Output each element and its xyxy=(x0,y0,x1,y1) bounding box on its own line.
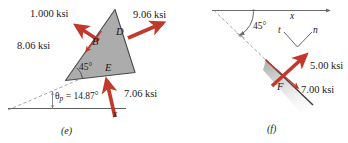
point-label-B: B xyxy=(92,37,98,48)
label-706-ksi: 7.06 ksi xyxy=(124,89,157,100)
panel-e-x-axis-label: x xyxy=(113,110,117,120)
caption-e: (e) xyxy=(61,126,72,136)
panel-f-t-axis-label: t xyxy=(278,26,281,36)
point-label-D: D xyxy=(116,27,124,38)
theta-value: = 14.87° xyxy=(63,91,98,101)
panel-f-angle-arc xyxy=(240,12,254,35)
caption-f: (f) xyxy=(267,124,276,134)
label-700-ksi: 7.00 ksi xyxy=(301,85,334,96)
panel-f-n-axis-label: n xyxy=(313,26,318,36)
panel-f-x-axis xyxy=(212,9,330,11)
panel-e-stress-wedge xyxy=(66,10,136,81)
label-500-ksi: 5.00 ksi xyxy=(310,61,343,72)
label-plane-angle-45: 45° xyxy=(253,22,266,32)
stress-element-figure: 1.000 ksi 8.06 ksi 9.06 ksi 7.06 ksi B D… xyxy=(0,0,348,143)
panel-e-arrow-906ksi xyxy=(128,23,163,38)
point-label-F: F xyxy=(277,82,283,93)
point-label-E: E xyxy=(105,63,111,74)
label-906-ksi: 9.06 ksi xyxy=(133,10,166,21)
label-principal-angle: θp = 14.87° xyxy=(55,92,99,102)
panel-f-tn-axes xyxy=(284,32,312,47)
label-1000-ksi: 1.000 ksi xyxy=(30,9,69,20)
label-806-ksi: 8.06 ksi xyxy=(17,41,50,52)
label-wedge-angle-45: 45° xyxy=(79,63,92,73)
figure-vector-canvas xyxy=(0,0,348,143)
panel-f-plane-dashed-line xyxy=(214,11,268,63)
panel-f-x-axis-label: x xyxy=(290,12,294,22)
